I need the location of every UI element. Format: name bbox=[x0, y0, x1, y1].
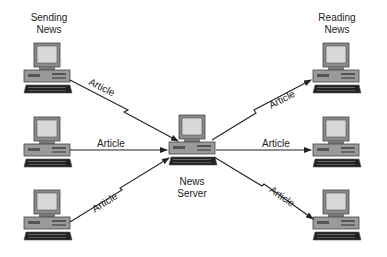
diagram-canvas bbox=[0, 0, 387, 257]
computer-icon-sender-3 bbox=[24, 190, 72, 240]
news-server-label: News Server bbox=[163, 176, 221, 200]
edge-label-reader2: Article bbox=[262, 138, 290, 149]
news-distribution-diagram: Sending News Reading News News Server Ar… bbox=[0, 0, 387, 257]
computer-icon-reader-2 bbox=[313, 117, 361, 167]
sending-label-line2: News bbox=[20, 24, 78, 36]
server-label-line1: News bbox=[163, 176, 221, 188]
sending-label-line1: Sending bbox=[20, 12, 78, 24]
computer-icon-sender-2 bbox=[24, 117, 72, 167]
edge-label-sender2: Article bbox=[97, 138, 125, 149]
server-label-line2: Server bbox=[163, 188, 221, 200]
reading-label-line1: Reading bbox=[308, 12, 366, 24]
sending-news-label: Sending News bbox=[20, 12, 78, 36]
computer-icon-reader-3 bbox=[313, 190, 361, 240]
reading-news-label: Reading News bbox=[308, 12, 366, 36]
reading-label-line2: News bbox=[308, 24, 366, 36]
computer-icon-sender-1 bbox=[24, 43, 72, 93]
computer-icon-reader-1 bbox=[313, 43, 361, 93]
